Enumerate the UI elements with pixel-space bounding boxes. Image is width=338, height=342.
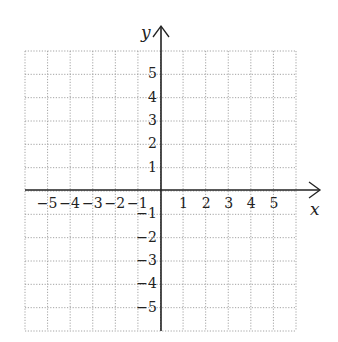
- y-tick-label: 1: [148, 159, 157, 175]
- x-tick-label: 4: [247, 195, 256, 211]
- y-tick-label: 5: [148, 65, 157, 81]
- axes: [25, 26, 320, 331]
- y-tick-label: −2: [136, 229, 157, 245]
- x-tick-label: −3: [82, 195, 103, 211]
- x-tick-label: −4: [59, 195, 80, 211]
- x-tick-label: 3: [224, 195, 233, 211]
- x-tick-label: −5: [37, 195, 58, 211]
- y-tick-label: −4: [136, 275, 157, 291]
- x-axis-label: x: [310, 199, 320, 219]
- y-tick-label: 4: [148, 89, 157, 105]
- x-tick-label: −2: [105, 195, 126, 211]
- x-tick-label: 1: [179, 195, 188, 211]
- coordinate-plane: x y −5−4−3−2−112345 54321−1−2−3−4−5: [0, 0, 338, 342]
- x-tick-label: 2: [202, 195, 211, 211]
- y-tick-label: 3: [148, 112, 157, 128]
- x-tick-labels: −5−4−3−2−112345: [37, 195, 279, 211]
- y-axis-label: y: [140, 22, 151, 42]
- y-tick-label: −5: [136, 299, 157, 315]
- x-tick-label: 5: [269, 195, 278, 211]
- y-tick-label: −3: [136, 252, 157, 268]
- y-tick-label: 2: [148, 135, 157, 151]
- y-tick-label: −1: [136, 205, 157, 221]
